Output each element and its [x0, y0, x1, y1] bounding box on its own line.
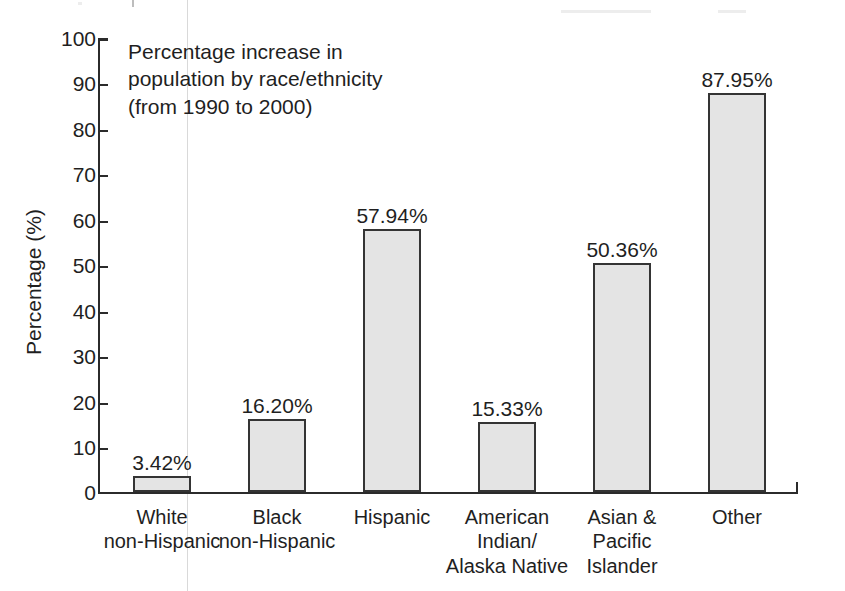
- bar-hispanic[interactable]: [363, 229, 421, 492]
- bar-value-label: 16.20%: [217, 395, 337, 416]
- y-tick-label: 100: [61, 28, 96, 49]
- bar-value-label: 50.36%: [562, 239, 682, 260]
- chart-page: 100 90 80 70 60 50 40 30 20 10 0: [0, 0, 845, 591]
- chart-title: Percentage increase in population by rac…: [128, 38, 383, 120]
- bar-value-label: 57.94%: [332, 205, 452, 226]
- bar-value-label: 87.95%: [677, 69, 797, 90]
- y-tick-label: 90: [73, 73, 96, 94]
- y-tick-label: 60: [73, 210, 96, 231]
- bar-value-label: 3.42%: [102, 452, 222, 473]
- y-tick-label: 10: [73, 437, 96, 458]
- y-axis-title: Percentage (%): [22, 172, 46, 392]
- x-axis-line: [98, 492, 798, 494]
- x-axis-cap: [796, 482, 798, 494]
- bar-black-non-hispanic[interactable]: [248, 419, 306, 492]
- y-tick-label: 50: [73, 255, 96, 276]
- bar-other[interactable]: [708, 93, 766, 492]
- y-tick-label: 30: [73, 346, 96, 367]
- y-tick-label: 0: [84, 482, 96, 503]
- x-category-label: Other: [667, 505, 807, 529]
- bar-value-label: 15.33%: [447, 398, 567, 419]
- bar-white-non-hispanic[interactable]: [133, 476, 191, 492]
- y-tick-label: 80: [73, 119, 96, 140]
- y-tick-label: 40: [73, 301, 96, 322]
- bar-asian-pacific[interactable]: [593, 263, 651, 492]
- y-tick-label: 70: [73, 164, 96, 185]
- bar-american-indian[interactable]: [478, 422, 536, 492]
- y-tick-label: 20: [73, 392, 96, 413]
- bar-chart: 100 90 80 70 60 50 40 30 20 10 0: [0, 0, 845, 591]
